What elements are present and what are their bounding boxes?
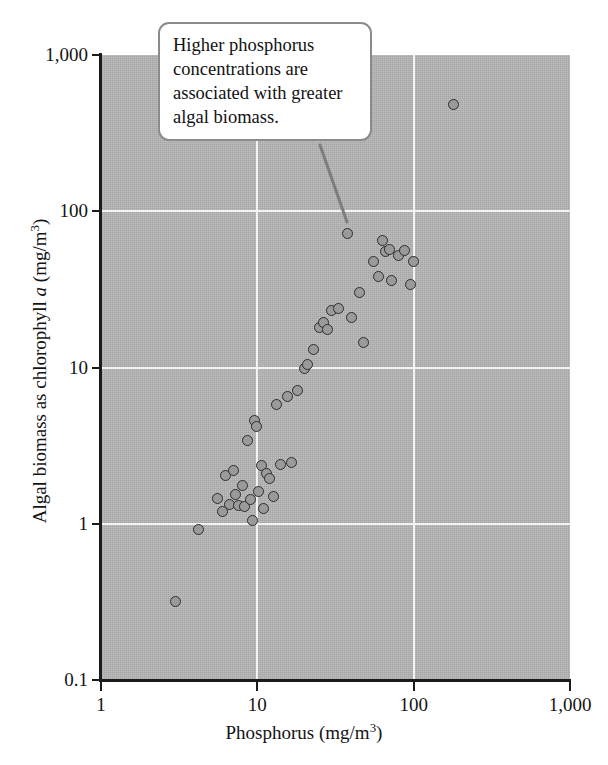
y-axis-tick (92, 210, 101, 212)
data-point (253, 486, 264, 497)
data-point (242, 435, 253, 446)
data-point (264, 473, 275, 484)
x-axis-tick (256, 681, 258, 691)
data-point (237, 480, 248, 491)
data-point (322, 324, 333, 335)
x-axis-title-text: Phosphorus (mg/m (226, 722, 370, 743)
data-point (170, 596, 181, 607)
data-point (358, 337, 369, 348)
y-axis-title-italic-a: a (29, 287, 50, 297)
data-point (333, 303, 344, 314)
data-point (373, 271, 384, 282)
data-point (258, 503, 269, 514)
data-point (286, 457, 297, 468)
y-axis-title-superscript: 3 (27, 225, 42, 231)
data-point (212, 493, 223, 504)
y-axis-tick-label: 0.1 (0, 670, 88, 689)
callout-annotation: Higher phosphorus concentrations are ass… (158, 22, 372, 141)
data-point (346, 312, 357, 323)
x-axis-title-tail: ) (376, 722, 382, 743)
data-point (275, 459, 286, 470)
y-axis-title-units: (mg/m (29, 231, 50, 286)
x-axis-tick (569, 681, 571, 691)
data-point (228, 465, 239, 476)
data-point (405, 279, 416, 290)
x-axis-line (99, 679, 571, 682)
y-axis-title-tail: ) (29, 219, 50, 225)
x-axis-tick (100, 681, 102, 691)
data-point (408, 256, 419, 267)
callout-line-2: concentrations are (173, 57, 359, 81)
data-point (251, 421, 262, 432)
gridline-horizontal (101, 523, 570, 525)
y-axis-tick-label-wrap: 1,000 (0, 45, 88, 64)
data-point (193, 524, 204, 535)
callout-line-3: associated with greater (173, 81, 359, 105)
data-point (282, 391, 293, 402)
data-point (368, 256, 379, 267)
data-point (399, 245, 410, 256)
y-axis-tick-label: 1,000 (0, 45, 88, 64)
y-axis-tick (92, 54, 101, 56)
figure-scatter-phosphorus-chlorophyll: 1,0001001010.1 1101001,000 Phosphorus (m… (0, 0, 608, 765)
y-axis-title-text: Algal biomass as chlorophyll (29, 296, 50, 523)
callout-line-4: algal biomass. (173, 105, 359, 129)
callout-leader-line (300, 130, 380, 240)
x-axis-tick-label: 10 (212, 695, 302, 714)
data-point (292, 385, 303, 396)
y-axis-title: Algal biomass as chlorophyll a (mg/m3) (29, 71, 51, 671)
x-axis-tick-label: 100 (369, 695, 459, 714)
callout-line-1: Higher phosphorus (173, 33, 359, 57)
data-point (354, 287, 365, 298)
y-axis-tick (92, 523, 101, 525)
data-point (271, 399, 282, 410)
data-point (245, 494, 256, 505)
data-point (448, 99, 459, 110)
gridline-horizontal (101, 367, 570, 369)
data-point (302, 359, 313, 370)
y-axis-tick-label-wrap: 0.1 (0, 670, 88, 689)
data-point (386, 275, 397, 286)
x-axis-tick-label: 1 (56, 695, 146, 714)
data-point (308, 344, 319, 355)
x-axis-tick-label: 1,000 (525, 695, 608, 714)
x-axis-tick (413, 681, 415, 691)
x-axis-title: Phosphorus (mg/m3) (0, 722, 608, 744)
y-axis-tick (92, 367, 101, 369)
data-point (247, 515, 258, 526)
data-point (268, 491, 279, 502)
